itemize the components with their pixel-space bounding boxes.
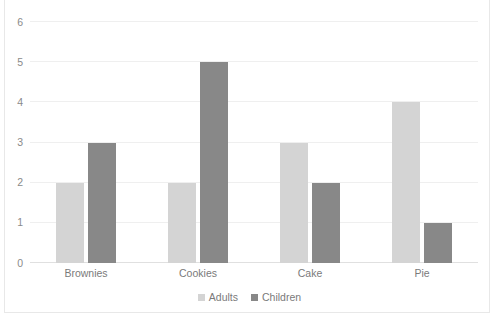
y-axis-tick-label: 1 — [17, 218, 23, 229]
bars-layer — [30, 22, 478, 263]
y-axis-tick-label: 5 — [17, 57, 23, 68]
x-axis-label-pie: Pie — [414, 267, 429, 280]
bar-group — [392, 22, 452, 263]
legend-item-children[interactable]: Children — [251, 292, 301, 303]
y-axis-tick-label: 0 — [17, 258, 23, 269]
bar-pie-adults[interactable] — [392, 102, 420, 263]
chart-title — [36, 0, 456, 3]
bar-group — [280, 22, 340, 263]
bar-cookies-adults[interactable] — [168, 183, 196, 263]
bar-chart: 0123456 BrowniesCookiesCakePie AdultsChi… — [0, 0, 499, 320]
legend-swatch-icon — [198, 294, 205, 301]
x-axis-label-brownies: Brownies — [64, 267, 107, 280]
bar-cake-children[interactable] — [312, 183, 340, 263]
x-axis-labels: BrowniesCookiesCakePie — [30, 267, 478, 283]
bar-group — [168, 22, 228, 263]
bar-group — [56, 22, 116, 263]
y-axis-tick-label: 2 — [17, 177, 23, 188]
plot-area: 0123456 — [30, 22, 478, 263]
x-axis-label-cookies: Cookies — [179, 267, 217, 280]
chart-legend: AdultsChildren — [0, 292, 499, 303]
x-axis-label-cake: Cake — [298, 267, 323, 280]
bar-brownies-adults[interactable] — [56, 183, 84, 263]
bar-pie-children[interactable] — [424, 223, 452, 263]
y-axis-tick-label: 4 — [17, 97, 23, 108]
y-axis-tick-label: 3 — [17, 137, 23, 148]
y-axis-tick-label: 6 — [17, 17, 23, 28]
bar-brownies-children[interactable] — [88, 143, 116, 264]
legend-swatch-icon — [251, 294, 258, 301]
legend-item-adults[interactable]: Adults — [198, 292, 238, 303]
legend-label: Children — [262, 292, 301, 303]
bar-cake-adults[interactable] — [280, 143, 308, 264]
bar-cookies-children[interactable] — [200, 62, 228, 263]
legend-label: Adults — [209, 292, 238, 303]
